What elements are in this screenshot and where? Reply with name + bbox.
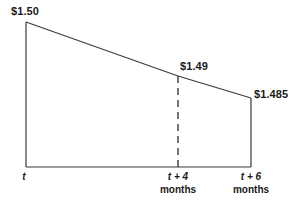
x-axis-tick-label-t-plus-4-text: t + 4 bbox=[168, 171, 188, 182]
x-axis-tick-label-t-plus-6: t + 6 months bbox=[223, 172, 279, 195]
x-axis-tick-label-t-text: t bbox=[22, 171, 25, 182]
price-line-segment-first bbox=[26, 22, 178, 76]
x-axis-tick-label-t-plus-4-unit: months bbox=[150, 185, 206, 195]
x-axis-tick-label-t-plus-6-text: t + 6 bbox=[241, 171, 261, 182]
x-axis-tick-label-t: t bbox=[16, 172, 32, 182]
value-label-end: $1.485 bbox=[254, 89, 288, 100]
value-label-start: $1.50 bbox=[11, 6, 39, 17]
value-label-mid: $1.49 bbox=[180, 61, 208, 72]
price-decline-line-chart: $1.50 $1.49 $1.485 t t + 4 months t + 6 … bbox=[0, 0, 297, 206]
price-line-segment-second bbox=[178, 76, 251, 98]
x-axis-tick-label-t-plus-4: t + 4 months bbox=[150, 172, 206, 195]
x-axis-tick-label-t-plus-6-unit: months bbox=[223, 185, 279, 195]
